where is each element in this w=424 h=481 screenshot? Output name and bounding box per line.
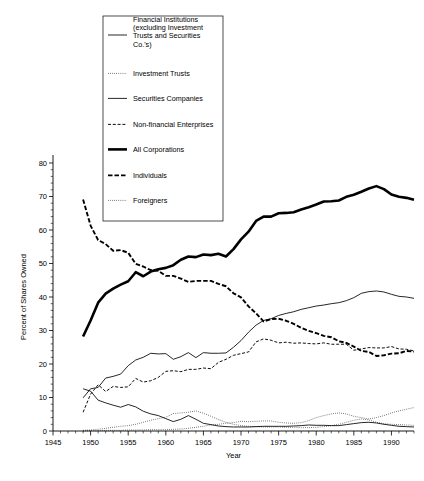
x-tick-label: 1955 [120, 438, 137, 447]
series-line-investment-trusts [83, 411, 414, 430]
legend-label-6: Foreigners [133, 196, 168, 205]
y-tick-label: 80 [39, 159, 47, 168]
legend-label-3: Non-financial Enterprises [133, 120, 214, 129]
y-tick-label: 60 [39, 226, 47, 235]
x-axis-title: Year [226, 451, 242, 460]
legend-label-5: Individuals [133, 171, 167, 180]
chart-svg: 0102030405060708019451950195519601965197… [0, 0, 424, 481]
x-tick-label: 1990 [383, 438, 400, 447]
y-tick-label: 40 [39, 293, 47, 302]
y-tick-label: 0 [43, 427, 47, 436]
legend-label-0: Co.'s) [133, 40, 152, 49]
series-line-non-financial-enterprises [83, 339, 414, 412]
legend-box [103, 16, 223, 221]
y-tick-label: 30 [39, 326, 47, 335]
x-tick-label: 1980 [308, 438, 325, 447]
y-axis-title: Percent of Shares Owned [19, 254, 28, 340]
x-tick-label: 1965 [195, 438, 212, 447]
legend-label-1: Investment Trusts [133, 69, 190, 78]
x-tick-label: 1975 [270, 438, 287, 447]
y-tick-label: 10 [39, 393, 47, 402]
y-tick-label: 20 [39, 360, 47, 369]
legend-label-4: All Corporations [133, 145, 185, 154]
chart-figure: 0102030405060708019451950195519601965197… [0, 0, 424, 481]
x-tick-label: 1945 [45, 438, 62, 447]
legend-label-2: Securities Companies [133, 94, 203, 103]
series-line-foreigners [83, 408, 414, 431]
x-tick-label: 1950 [82, 438, 99, 447]
x-tick-label: 1970 [233, 438, 250, 447]
y-tick-label: 70 [39, 192, 47, 201]
x-tick-label: 1960 [157, 438, 174, 447]
x-tick-label: 1985 [345, 438, 362, 447]
y-tick-label: 50 [39, 259, 47, 268]
